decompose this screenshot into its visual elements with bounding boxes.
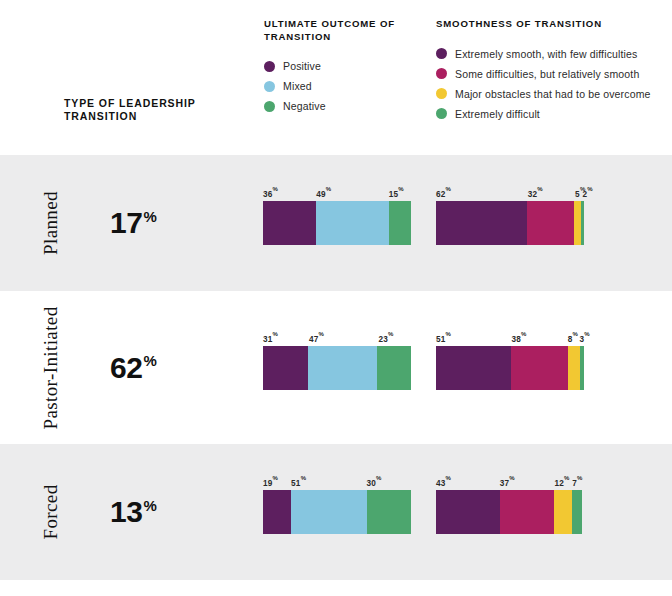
row-share-percent-symbol: % bbox=[143, 352, 156, 369]
legend-item: Extremely difficult bbox=[436, 105, 672, 123]
header: TYPE OF LEADERSHIP TRANSITION ULTIMATE O… bbox=[0, 0, 672, 155]
bar-segment-label: 43% bbox=[436, 477, 451, 488]
stacked-bar bbox=[436, 490, 584, 534]
row-category-text: Forced bbox=[40, 484, 62, 539]
legend-item-label: Extremely difficult bbox=[455, 108, 540, 120]
legend-item: Some difficulties, but relatively smooth bbox=[436, 65, 672, 83]
bar-segment bbox=[581, 201, 584, 245]
bar-segment-label: 49% bbox=[316, 188, 331, 199]
bar-segment bbox=[436, 201, 527, 245]
bar-segment-label: 32% bbox=[528, 188, 543, 199]
bar-group-left: 19%51%30% bbox=[263, 490, 411, 534]
stacked-bar bbox=[263, 490, 411, 534]
bar-segment bbox=[308, 346, 377, 390]
bar-value-labels: 51%38%8%3% bbox=[436, 332, 584, 344]
row-category-label: Forced bbox=[28, 444, 74, 580]
bar-segment-label: 19% bbox=[263, 477, 278, 488]
bar-segment-label: 12% bbox=[554, 477, 569, 488]
row-category-label: Planned bbox=[28, 155, 74, 291]
row-category-label: Pastor-Initiated bbox=[28, 292, 74, 443]
legend-dot-icon bbox=[436, 88, 447, 99]
bar-segment-label: 37% bbox=[500, 477, 515, 488]
bar-value-labels: 31%47%23% bbox=[263, 332, 411, 344]
legend-item-label: Major obstacles that had to be overcome bbox=[455, 88, 651, 100]
legend-dot-icon bbox=[264, 61, 275, 72]
chart-row: Pastor-Initiated62%31%47%23%51%38%8%3% bbox=[0, 292, 672, 443]
bar-segment-label: 15% bbox=[389, 188, 404, 199]
legend-item: Mixed bbox=[264, 77, 429, 95]
bar-segment bbox=[389, 201, 411, 245]
bar-segment-label: 3% bbox=[580, 333, 590, 344]
legend-smoothness-title: SMOOTHNESS OF TRANSITION bbox=[436, 18, 672, 31]
bar-group-right: 43%37%12%7% bbox=[436, 490, 584, 534]
legend-smoothness: SMOOTHNESS OF TRANSITION Extremely smoot… bbox=[436, 18, 672, 125]
row-share-value: 17% bbox=[110, 155, 230, 291]
bar-segment-label: 51% bbox=[436, 333, 451, 344]
bar-segment bbox=[527, 201, 574, 245]
legend-dot-icon bbox=[264, 101, 275, 112]
stacked-bar bbox=[436, 201, 584, 245]
bar-segment-label: 23% bbox=[378, 333, 393, 344]
stacked-bar bbox=[263, 201, 411, 245]
chart-row: Forced13%19%51%30%43%37%12%7% bbox=[0, 444, 672, 580]
bar-group-right: 62%32%5%2% bbox=[436, 201, 584, 245]
bar-group-left: 31%47%23% bbox=[263, 346, 411, 390]
bar-segment bbox=[511, 346, 567, 390]
legend-dot-icon bbox=[436, 108, 447, 119]
bar-segment-label: 31% bbox=[263, 333, 278, 344]
row-share-percent-symbol: % bbox=[143, 208, 156, 225]
bar-segment bbox=[568, 346, 580, 390]
bar-segment bbox=[263, 201, 316, 245]
legend-outcome-title: ULTIMATE OUTCOME OF TRANSITION bbox=[264, 18, 429, 43]
bar-segment-label: 30% bbox=[367, 477, 382, 488]
page-title: TYPE OF LEADERSHIP TRANSITION bbox=[64, 97, 254, 123]
bar-segment bbox=[263, 346, 308, 390]
legend-item: Extremely smooth, with few difficulties bbox=[436, 45, 672, 63]
legend-item-label: Mixed bbox=[283, 80, 312, 92]
bar-value-labels: 36%49%15% bbox=[263, 187, 411, 199]
bar-segment bbox=[291, 490, 366, 534]
bar-segment-label: 47% bbox=[309, 333, 324, 344]
legend-item-label: Positive bbox=[283, 60, 321, 72]
bar-segment-label: 7% bbox=[572, 477, 582, 488]
bar-segment bbox=[316, 201, 389, 245]
row-share-percent-symbol: % bbox=[143, 497, 156, 514]
stacked-bar bbox=[263, 346, 411, 390]
bar-segment-label: 36% bbox=[263, 188, 278, 199]
legend-item-label: Negative bbox=[283, 100, 326, 112]
legend-outcome: ULTIMATE OUTCOME OF TRANSITION Positive … bbox=[264, 18, 429, 117]
legend-dot-icon bbox=[436, 68, 447, 79]
bar-segment-label: 62% bbox=[436, 188, 451, 199]
bar-group-left: 36%49%15% bbox=[263, 201, 411, 245]
legend-item: Major obstacles that had to be overcome bbox=[436, 85, 672, 103]
bar-segment bbox=[436, 490, 500, 534]
row-share-value: 62% bbox=[110, 292, 230, 443]
stacked-bar bbox=[436, 346, 584, 390]
bar-segment bbox=[500, 490, 555, 534]
bar-group-right: 51%38%8%3% bbox=[436, 346, 584, 390]
legend-item-label: Extremely smooth, with few difficulties bbox=[455, 48, 637, 60]
bar-value-labels: 43%37%12%7% bbox=[436, 476, 584, 488]
bar-segment bbox=[263, 490, 291, 534]
legend-item: Positive bbox=[264, 57, 429, 75]
legend-item-label: Some difficulties, but relatively smooth bbox=[455, 68, 639, 80]
row-share-number: 17 bbox=[110, 206, 142, 240]
bar-segment bbox=[580, 346, 584, 390]
bar-segment-label: 8% bbox=[568, 333, 578, 344]
chart-row: Planned17%36%49%15%62%32%5%2% bbox=[0, 155, 672, 291]
bar-segment-label: 38% bbox=[511, 333, 526, 344]
bar-segment-label: 51% bbox=[291, 477, 306, 488]
legend-dot-icon bbox=[436, 48, 447, 59]
row-category-text: Pastor-Initiated bbox=[40, 306, 62, 429]
row-share-number: 62 bbox=[110, 351, 142, 385]
bar-segment bbox=[367, 490, 411, 534]
bar-value-labels: 62%32%5%2% bbox=[436, 187, 584, 199]
bar-value-labels: 19%51%30% bbox=[263, 476, 411, 488]
legend-dot-icon bbox=[264, 81, 275, 92]
row-category-text: Planned bbox=[40, 191, 62, 255]
legend-item: Negative bbox=[264, 97, 429, 115]
row-share-value: 13% bbox=[110, 444, 230, 580]
bar-segment bbox=[554, 490, 572, 534]
bar-segment-label: 2% bbox=[583, 188, 593, 199]
row-share-number: 13 bbox=[110, 495, 142, 529]
